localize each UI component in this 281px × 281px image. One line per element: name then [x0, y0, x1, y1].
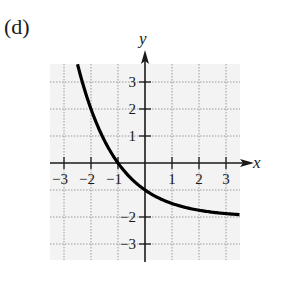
y-axis-label: y	[137, 29, 147, 48]
x-tick-label: −3	[52, 171, 68, 187]
x-tick-label: 3	[222, 171, 230, 187]
x-axis-label: x	[252, 153, 261, 172]
x-tick-label: 1	[168, 171, 176, 187]
graph: −3−2−1123321−2−3 x y	[0, 0, 281, 281]
y-tick-label: 3	[129, 74, 137, 90]
y-tick-label: −3	[120, 236, 136, 252]
x-tick-label: −1	[106, 171, 122, 187]
y-tick-label: 2	[129, 101, 137, 117]
x-tick-label: −2	[79, 171, 95, 187]
y-tick-label: 1	[129, 128, 137, 144]
x-tick-label: 2	[195, 171, 203, 187]
y-tick-label: −2	[120, 209, 136, 225]
